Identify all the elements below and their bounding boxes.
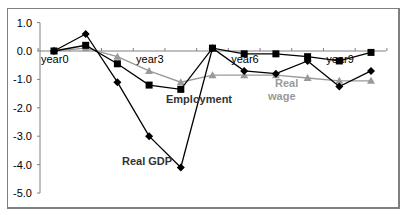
y-tick-label: -3.0 xyxy=(13,130,32,142)
data-point-marker xyxy=(367,67,375,75)
y-axis: 1.00.0-1.0-2.0-3.0-4.0-5.0 xyxy=(13,17,40,199)
y-tick-label: -2.0 xyxy=(13,102,32,114)
data-point-marker xyxy=(240,67,248,75)
real-wage-label-line2: wage xyxy=(267,90,296,102)
y-tick-label: 1.0 xyxy=(17,17,32,29)
y-tick-label: -1.0 xyxy=(13,73,32,85)
y-tick-label: 0.0 xyxy=(17,45,32,57)
data-point-marker xyxy=(241,50,248,57)
data-point-marker xyxy=(145,67,153,74)
data-point-marker xyxy=(368,49,375,56)
employment-label: Employment xyxy=(166,93,232,105)
line-chart: 1.00.0-1.0-2.0-3.0-4.0-5.0 year0year3yea… xyxy=(0,0,407,215)
data-point-marker xyxy=(114,60,121,67)
y-tick-label: -5.0 xyxy=(13,187,32,199)
y-tick-label: -4.0 xyxy=(13,159,32,171)
real-wage-label-line1: Real xyxy=(275,77,298,89)
data-point-marker xyxy=(113,78,121,86)
real-gdp-label: Real GDP xyxy=(122,155,172,167)
data-point-marker xyxy=(336,57,343,64)
x-tick-label: year0 xyxy=(41,53,69,65)
data-point-marker xyxy=(82,42,89,49)
data-point-marker xyxy=(82,30,90,38)
data-point-marker xyxy=(177,86,184,93)
x-tick-label: year3 xyxy=(136,53,164,65)
data-point-marker xyxy=(146,82,153,89)
data-point-marker xyxy=(272,50,279,57)
